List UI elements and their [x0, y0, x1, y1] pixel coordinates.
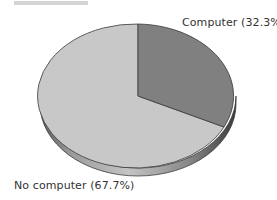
pie-chart	[0, 0, 277, 200]
label-computer: Computer (32.3%)	[182, 16, 277, 29]
label-no-computer: No computer (67.7%)	[14, 179, 134, 192]
